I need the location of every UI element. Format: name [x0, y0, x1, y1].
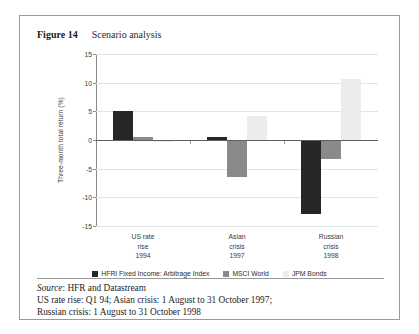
gridline	[96, 83, 378, 84]
chart-legend: HFRI Fixed Income: Arbitrage IndexMSCI W…	[20, 264, 399, 282]
y-tick-label: 10	[66, 83, 92, 84]
y-tick-label: -10	[66, 197, 92, 198]
legend-item[interactable]: MSCI World	[223, 270, 269, 277]
gridline	[96, 111, 378, 112]
category-label-line: crisis	[202, 242, 272, 252]
y-tick-mark	[93, 169, 96, 170]
bar	[301, 140, 321, 214]
legend-swatch-icon	[283, 271, 289, 277]
category-label-line: 1997	[202, 251, 272, 261]
category-label-line: rise	[108, 242, 178, 252]
source-rest: : HFR and Datastream	[62, 283, 145, 293]
gridline	[96, 54, 378, 55]
y-tick-mark	[93, 83, 96, 84]
zero-axis-line	[96, 140, 378, 141]
figure-number: Figure 14	[37, 29, 78, 40]
legend-swatch-icon	[223, 271, 229, 277]
bar	[227, 140, 247, 177]
figure-heading: Figure 14Scenario analysis	[37, 29, 161, 40]
source-line: Source: HFR and Datastream	[37, 282, 387, 294]
y-tick-mark	[93, 54, 96, 55]
legend-label: MSCI World	[232, 270, 269, 277]
y-tick-label: 5	[66, 111, 92, 112]
category-label-line: US rate	[108, 232, 178, 242]
source-word: Source	[37, 283, 62, 293]
bar	[247, 116, 267, 140]
category-label-line: 1998	[296, 251, 366, 261]
figure-notes: Source: HFR and Datastream US rate rise:…	[37, 282, 387, 319]
legend-label: JPM Bonds	[292, 270, 327, 277]
footer-divider	[37, 278, 384, 279]
y-tick-mark	[93, 111, 96, 112]
note-line-3: Russian crisis: 1 August to 31 October 1…	[37, 306, 387, 318]
figure-title: Scenario analysis	[92, 29, 162, 40]
note-line-2: US rate rise: Q1 94; Asian crisis: 1 Aug…	[37, 294, 387, 306]
legend-item[interactable]: JPM Bonds	[283, 270, 327, 277]
bar	[341, 79, 361, 140]
y-tick-mark	[93, 197, 96, 198]
y-tick-label: -15	[66, 226, 92, 227]
bar	[321, 140, 341, 159]
bar	[113, 111, 133, 140]
y-tick-label: 15	[66, 54, 92, 55]
y-tick-mark	[93, 226, 96, 227]
gridline	[96, 197, 378, 198]
chart-plot-area: Three-month total return (%) 151050-5-10…	[96, 54, 378, 226]
category-label: Asiancrisis1997	[202, 232, 272, 261]
legend-label: HFRI Fixed Income: Arbitrage Index	[101, 270, 209, 277]
legend-item[interactable]: HFRI Fixed Income: Arbitrage Index	[92, 270, 209, 277]
category-label-line: Russian	[296, 232, 366, 242]
category-label-line: Asian	[202, 232, 272, 242]
category-label-line: 1994	[108, 251, 178, 261]
category-label: Russiancrisis1998	[296, 232, 366, 261]
y-tick-label: -5	[66, 169, 92, 170]
category-label: US raterise1994	[108, 232, 178, 261]
legend-swatch-icon	[92, 271, 98, 277]
y-tick-label: 0	[66, 140, 92, 141]
category-label-line: crisis	[296, 242, 366, 252]
figure-panel: Figure 14Scenario analysis Three-month t…	[19, 15, 400, 320]
gridline	[96, 226, 378, 227]
